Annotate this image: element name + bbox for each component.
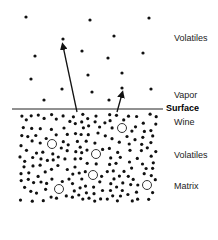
wine-dot: [80, 120, 83, 123]
wine-dot: [131, 199, 134, 202]
wine-dot: [141, 162, 144, 165]
wine-dot: [23, 186, 26, 189]
wine-dot: [63, 157, 66, 160]
volatile-dot: [29, 77, 32, 80]
wine-dot: [44, 170, 47, 173]
volatile-dot: [149, 87, 152, 90]
wine-dot: [71, 196, 74, 199]
wine-dot: [136, 198, 139, 201]
wine-dot: [110, 137, 113, 140]
vapor-volatiles-label: Volatiles: [174, 33, 208, 43]
wine-dot: [51, 152, 54, 155]
wine-dot: [85, 140, 88, 143]
wine-dot: [109, 182, 112, 185]
wine-dot: [130, 130, 133, 133]
wine-dot: [82, 126, 85, 129]
wine-dot: [31, 164, 34, 167]
wine-dot: [96, 131, 99, 134]
wine-dot: [57, 155, 60, 158]
matrix-circle: [92, 150, 101, 159]
wine-dot: [112, 177, 115, 180]
wine-dot: [99, 197, 102, 200]
wine-dot: [143, 130, 146, 133]
wine-dot: [71, 173, 74, 176]
wine-dot: [151, 191, 154, 194]
volatile-dot: [112, 34, 115, 37]
wine-dot: [42, 199, 45, 202]
wine-dot: [55, 118, 58, 121]
wine-dot: [80, 177, 83, 180]
wine-dot: [78, 171, 81, 174]
wine-dot: [31, 156, 34, 159]
wine-dot: [27, 171, 30, 174]
wine-dot: [61, 180, 64, 183]
wine-dot: [141, 136, 144, 139]
wine-dot: [79, 157, 82, 160]
wine-dot: [80, 151, 83, 154]
wine-dot: [81, 113, 84, 116]
wine-dot: [85, 149, 88, 152]
wine-dot: [121, 181, 124, 184]
wine-dot: [106, 198, 109, 201]
wine-dot: [128, 142, 131, 145]
wine-dot: [60, 146, 63, 149]
wine-dot: [127, 175, 130, 178]
wine-dot: [18, 155, 21, 158]
wine-dot: [30, 139, 33, 142]
wine-dot: [66, 149, 69, 152]
wine-dot: [37, 114, 40, 117]
wine-dot: [140, 149, 143, 152]
wine-dot: [118, 175, 121, 178]
wine-dot: [71, 182, 74, 185]
wine-dot: [79, 186, 82, 189]
wine-dot: [92, 186, 95, 189]
wine-dot: [66, 168, 69, 171]
wine-dot: [84, 185, 87, 188]
wine-dot: [74, 122, 77, 125]
wine-dot: [109, 156, 112, 159]
wine-dot: [119, 156, 122, 159]
wine-dot: [66, 133, 69, 136]
wine-dot: [95, 162, 98, 165]
wine-dot: [74, 157, 77, 160]
wine-dot: [136, 183, 139, 186]
wine-dot: [52, 158, 55, 161]
wine-dot: [133, 138, 136, 141]
vapor-label: Vapor: [174, 90, 197, 100]
wine-dot: [77, 193, 80, 196]
wine-dot: [55, 133, 58, 136]
wine-dot: [118, 141, 121, 144]
wine-dot: [43, 117, 46, 120]
wine-dot: [146, 146, 149, 149]
wine-dot: [19, 144, 22, 147]
wine-dot: [85, 191, 88, 194]
wine-dot: [93, 200, 96, 203]
wine-dot: [122, 118, 125, 121]
wine-dot: [39, 157, 42, 160]
wine-dot: [98, 125, 101, 128]
wine-dot: [79, 146, 82, 149]
volatile-dot: [106, 56, 109, 59]
volatile-dot: [90, 90, 93, 93]
wine-dot: [152, 161, 155, 164]
wine-dot: [121, 189, 124, 192]
wine-dot: [80, 133, 83, 136]
wine-dot: [111, 126, 114, 129]
wine-dot: [20, 115, 23, 118]
wine-dot: [41, 151, 44, 154]
wine-dot: [30, 114, 33, 117]
wine-dot: [135, 115, 138, 118]
wine-dot: [126, 193, 129, 196]
wine-dot: [39, 180, 42, 183]
wine-dot: [50, 168, 53, 171]
volatile-dot: [60, 87, 63, 90]
wine-dot: [81, 198, 84, 201]
wine-dot: [23, 160, 26, 163]
wine-dot: [130, 167, 133, 170]
wine-dot: [50, 113, 53, 116]
wine-dot: [101, 189, 104, 192]
wine-dot: [87, 133, 90, 136]
wine-dot: [25, 118, 28, 121]
wine-dot: [145, 167, 148, 170]
wine-dot: [142, 122, 145, 125]
